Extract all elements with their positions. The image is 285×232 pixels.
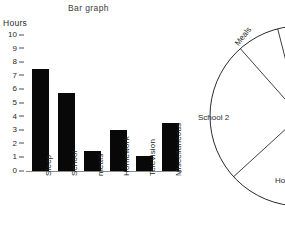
pie-slice-label-school: School 2: [198, 113, 229, 122]
x-label-homework: Homework: [122, 136, 131, 176]
y-tick-mark: [19, 143, 24, 144]
x-label-miscellaneous: Miscellaneous: [174, 123, 183, 176]
y-tick-mark: [19, 116, 24, 117]
y-tick-mark: [19, 75, 24, 76]
y-tick-mark: [19, 170, 24, 171]
y-tick-mark: [19, 34, 24, 35]
y-tick-1: 1: [0, 152, 17, 161]
chart-canvas: Bar graph Hours 109876543210 SleepSchool…: [0, 0, 285, 232]
y-tick-6: 6: [0, 84, 17, 93]
bar-chart-figure: Bar graph Hours 109876543210 SleepSchool…: [0, 0, 190, 232]
y-tick-9: 9: [0, 44, 17, 53]
x-label-sleep: Sleep: [44, 155, 53, 176]
y-tick-mark: [19, 48, 24, 49]
x-label-television: Television: [148, 139, 157, 176]
bar-plot-area: 109876543210 SleepSchoolmealsHomeworkTel…: [0, 0, 190, 232]
y-tick-mark: [19, 61, 24, 62]
y-tick-7: 7: [0, 71, 17, 80]
pie-slice-label-homework: Ho: [275, 176, 285, 185]
y-tick-5: 5: [0, 98, 17, 107]
y-tick-4: 4: [0, 112, 17, 121]
y-tick-mark: [19, 88, 24, 89]
y-tick-10: 10: [0, 30, 17, 39]
y-tick-0: 0: [0, 166, 17, 175]
pie-chart-figure: Meals School 2 Ho: [185, 0, 285, 232]
x-label-school: School: [70, 150, 79, 176]
y-tick-3: 3: [0, 125, 17, 134]
y-tick-2: 2: [0, 139, 17, 148]
y-tick-mark: [19, 156, 24, 157]
x-label-meals: meals: [96, 154, 105, 176]
y-tick-8: 8: [0, 57, 17, 66]
y-tick-mark: [19, 129, 24, 130]
y-tick-mark: [19, 102, 24, 103]
